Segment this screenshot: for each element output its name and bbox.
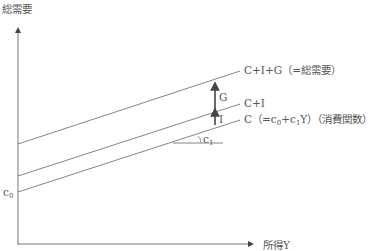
label-c-plus-i-plus-g: C+I+G（=総需要） [244, 65, 341, 76]
label-i: I [219, 114, 223, 125]
y-axis-label: 総需要 [2, 4, 32, 15]
x-axis-label: 所得Y [263, 240, 290, 251]
line-consumption [18, 120, 240, 192]
label-g: G [219, 92, 227, 103]
slope-arc [198, 136, 201, 143]
label-c-plus-i: C+I [244, 98, 265, 109]
label-consumption: C（=c0+c1Y）（消費関数） [244, 114, 372, 127]
intercept-label: c0 [3, 187, 13, 200]
slope-label: c1 [203, 134, 213, 147]
